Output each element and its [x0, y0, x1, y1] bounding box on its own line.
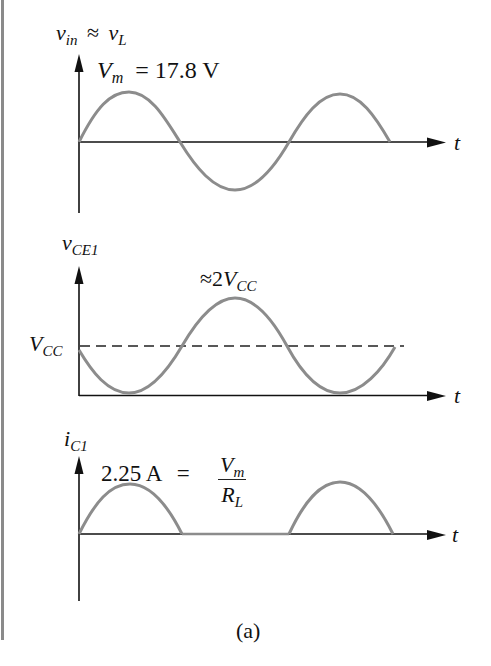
plot3-peak-current-value: 2.25 A: [101, 461, 161, 486]
plot2-vcc-main: V: [29, 331, 42, 356]
denominator-main: R: [221, 482, 234, 507]
plot1-y-label-rhs-main: v: [109, 20, 119, 45]
plot1-amplitude-label: Vm = 17.8 V: [97, 58, 220, 82]
numerator-main: V: [220, 452, 233, 477]
plot2-peak-label: ≈2VCC: [200, 268, 257, 290]
plot1-amplitude-main: V: [97, 57, 112, 83]
plot2-x-label: t: [454, 385, 460, 407]
plot2-y-label-main: v: [62, 230, 72, 255]
plot2-x-arrow-icon: [427, 391, 446, 401]
plot1-amplitude-sub: m: [112, 69, 124, 86]
plot1-y-label-sub: in: [66, 32, 78, 48]
plot1-amplitude-value: = 17.8 V: [135, 57, 219, 83]
plot2-waveform: [79, 298, 395, 393]
plot2-peak-sub: CC: [237, 278, 257, 294]
plot2-peak-main: V: [223, 266, 236, 291]
plot2-peak-prefix: ≈2: [200, 266, 223, 291]
plot1-y-label-rhs-sub: L: [118, 32, 126, 48]
plot-vce1: [75, 266, 447, 401]
plot3-y-label: iC1: [64, 428, 88, 450]
plot1-x-arrow-icon: [427, 138, 446, 148]
plot3-vm-over-rl-fraction: Vm RL: [218, 452, 246, 508]
plot3-equals-sign: =: [177, 461, 190, 486]
plot3-x-arrow-icon: [427, 530, 446, 540]
waveform-figure: [0, 0, 491, 666]
plot1-y-arrow-icon: [75, 54, 84, 72]
plot1-y-label-main: v: [56, 20, 66, 45]
figure-caption: (a): [236, 618, 260, 644]
plot2-vcc-sub: CC: [42, 343, 62, 359]
plot1-approx-symbol: ≈: [87, 20, 99, 45]
plot3-peak-current-label: 2.25 A =: [101, 462, 190, 485]
plot1-x-label: t: [454, 132, 460, 154]
fraction-numerator: Vm: [218, 452, 246, 480]
plot3-y-arrow-icon: [75, 456, 84, 474]
plot3-half-wave-pulse-2: [289, 482, 393, 534]
plot3-x-label: t: [452, 524, 458, 546]
denominator-sub: L: [235, 494, 243, 510]
plot1-sine-wave: [79, 92, 390, 190]
plot2-y-arrow-icon: [75, 266, 84, 284]
plot1-y-label: vin ≈ vL: [56, 22, 127, 44]
plot3-half-wave-pulse-1: [79, 484, 182, 534]
plot2-y-label: vCE1: [62, 232, 98, 254]
fraction-denominator: RL: [221, 480, 243, 508]
plot2-y-label-sub: CE1: [72, 242, 99, 258]
plot2-vcc-label: VCC: [29, 333, 62, 355]
plot3-y-label-sub: C1: [70, 438, 88, 454]
numerator-sub: m: [233, 464, 244, 480]
